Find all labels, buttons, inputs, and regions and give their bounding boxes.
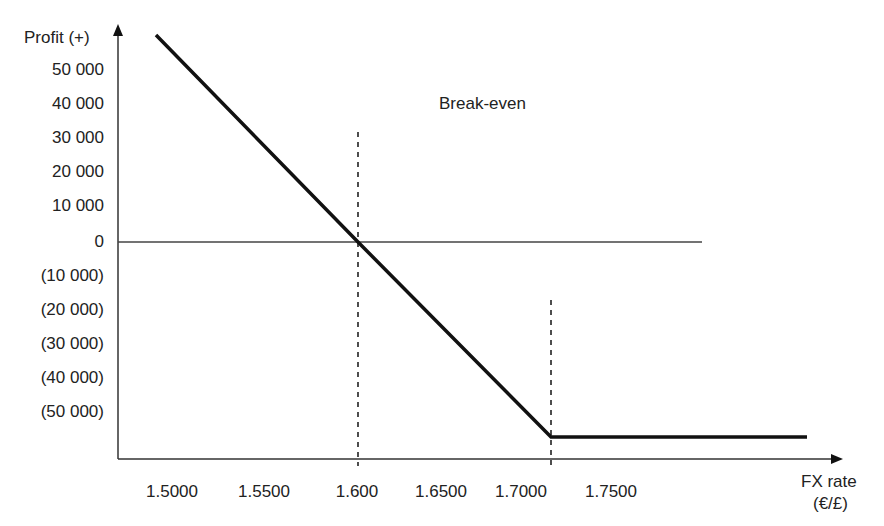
y-axis-title: Profit (+) bbox=[24, 28, 90, 48]
x-axis-title-line1: FX rate bbox=[801, 472, 857, 492]
chart-plot-area bbox=[0, 0, 884, 526]
x-tick-label: 1.5500 bbox=[238, 482, 290, 502]
y-tick-label: 20 000 bbox=[52, 162, 104, 182]
y-axis-arrow-icon bbox=[113, 24, 123, 36]
x-axis-arrow-icon bbox=[831, 454, 843, 464]
y-tick-label: (30 000) bbox=[41, 334, 104, 354]
x-axis-title-line2: (€/£) bbox=[813, 494, 848, 514]
x-tick-label: 1.7000 bbox=[495, 482, 547, 502]
y-tick-label: (40 000) bbox=[41, 368, 104, 388]
x-tick-label: 1.7500 bbox=[585, 482, 637, 502]
x-tick-label: 1.6500 bbox=[415, 482, 467, 502]
y-tick-label: (10 000) bbox=[41, 266, 104, 286]
y-tick-label: 30 000 bbox=[52, 128, 104, 148]
profit-chart: Profit (+) 50 000 40 000 30 000 20 000 1… bbox=[0, 0, 884, 526]
x-tick-label: 1.5000 bbox=[146, 482, 198, 502]
y-tick-label: (50 000) bbox=[41, 402, 104, 422]
y-tick-label: (20 000) bbox=[41, 300, 104, 320]
break-even-label: Break-even bbox=[439, 94, 526, 114]
y-tick-label: 0 bbox=[95, 232, 104, 252]
y-tick-label: 40 000 bbox=[52, 94, 104, 114]
y-tick-label: 10 000 bbox=[52, 196, 104, 216]
x-tick-label: 1.600 bbox=[336, 482, 379, 502]
y-tick-label: 50 000 bbox=[52, 60, 104, 80]
